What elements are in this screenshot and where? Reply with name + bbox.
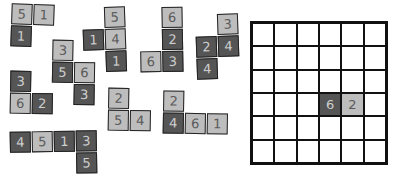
tile[interactable]: 4 [130,110,151,131]
board-cell-r2-c5[interactable] [364,70,386,93]
tile[interactable]: 2 [163,90,184,111]
tile[interactable]: 6 [140,51,161,72]
board-cell-r3-c5[interactable] [364,93,386,116]
tile[interactable]: 6 [10,93,31,114]
tile[interactable]: 6 [161,7,182,28]
tile[interactable]: 2 [108,88,129,109]
tile[interactable]: 4 [218,35,240,57]
board-cell-r1-c1[interactable] [274,46,296,69]
board-cell-r0-c1[interactable] [274,23,296,46]
board-cell-r2-c4[interactable] [341,70,363,93]
puzzle-board: 62 [250,21,388,165]
board-cell-r3-c1[interactable] [274,93,296,116]
tile[interactable]: 4 [105,28,127,50]
tile[interactable]: 2 [196,36,218,58]
board-cell-r5-c1[interactable] [274,140,296,163]
tile[interactable]: 5 [32,131,53,152]
board-cell-r4-c0[interactable] [252,116,274,139]
tile[interactable]: 3 [76,130,97,151]
board-cell-r2-c0[interactable] [252,70,274,93]
tile[interactable]: 1 [105,50,127,72]
puzzle-piece-p6[interactable]: 362 [10,71,55,116]
tile[interactable]: 5 [11,3,33,25]
board-cell-r4-c3[interactable] [319,116,341,139]
tile[interactable]: 3 [52,40,73,61]
board-cell-r4-c1[interactable] [274,116,296,139]
board-cell-r1-c5[interactable] [364,46,386,69]
board-cell-r5-c5[interactable] [364,140,386,163]
board-cell-r5-c4[interactable] [341,140,363,163]
puzzle-piece-p7[interactable]: 254 [108,88,153,133]
tile[interactable]: 6 [74,62,95,83]
tile[interactable]: 3 [162,51,183,72]
board-cell-r5-c0[interactable] [252,140,274,163]
puzzle-piece-p3[interactable]: 6263 [139,7,184,74]
tile[interactable]: 2 [32,93,53,114]
board-cell-r0-c2[interactable] [297,23,319,46]
puzzle-piece-p8[interactable]: 2461 [163,90,230,135]
tile[interactable]: 5 [104,6,126,28]
board-cell-r0-c5[interactable] [364,23,386,46]
tile[interactable]: 5 [52,62,73,83]
puzzle-piece-p9[interactable]: 45135 [10,130,99,176]
board-cell-r4-c2[interactable] [297,116,319,139]
board-cell-r3-c3[interactable]: 6 [319,93,341,116]
board-cell-r0-c3[interactable] [319,23,341,46]
board-cell-r2-c2[interactable] [297,70,319,93]
puzzle-piece-p4[interactable]: 3244 [195,13,241,80]
tile[interactable]: 3 [10,71,31,92]
board-cell-r5-c3[interactable] [319,140,341,163]
tile[interactable]: 4 [10,131,31,152]
tile[interactable]: 1 [33,4,55,26]
tile[interactable]: 1 [54,131,75,152]
board-cell-r3-c4[interactable]: 2 [341,93,363,116]
board-cell-r1-c4[interactable] [341,46,363,69]
board-cell-r1-c0[interactable] [252,46,274,69]
board-cell-r4-c5[interactable] [364,116,386,139]
tile[interactable]: 3 [217,13,239,35]
tile[interactable]: 5 [108,110,129,131]
puzzle-piece-p5[interactable]: 3563 [51,40,96,107]
board-cell-r1-c3[interactable] [319,46,341,69]
board-cell-r0-c4[interactable] [341,23,363,46]
board-cell-r3-c2[interactable] [297,93,319,116]
tile[interactable]: 1 [10,25,32,47]
tile[interactable]: 5 [76,152,97,173]
tile[interactable]: 4 [163,112,184,133]
board-cell-r1-c2[interactable] [297,46,319,69]
tile[interactable]: 6 [185,113,206,134]
tile[interactable]: 2 [162,29,183,50]
board-cell-r0-c0[interactable] [252,23,274,46]
board-cell-r5-c2[interactable] [297,140,319,163]
tile[interactable]: 3 [73,84,94,105]
board-cell-r2-c3[interactable] [319,70,341,93]
tile[interactable]: 1 [207,113,228,134]
board-cell-r4-c4[interactable] [341,116,363,139]
board-cell-r3-c0[interactable] [252,93,274,116]
tile[interactable]: 4 [196,58,218,80]
board-cell-r2-c1[interactable] [274,70,296,93]
puzzle-piece-p1[interactable]: 511 [10,3,56,49]
